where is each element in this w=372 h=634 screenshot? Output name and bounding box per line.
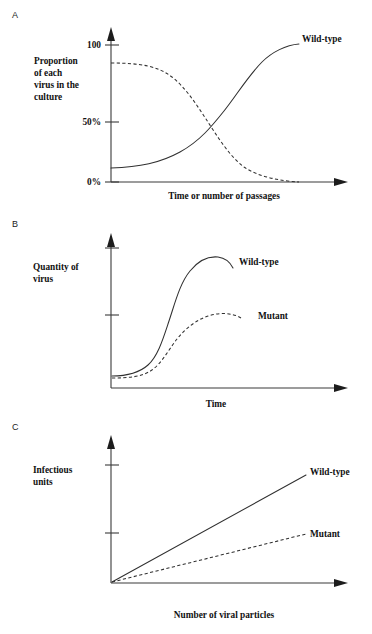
- panel-b: B Quantity of virus Time Wild-type Mutan…: [0, 215, 372, 415]
- panel-a-x-axis-label: Time or number of passages: [168, 191, 280, 201]
- panel-c-x-axis-label: Number of viral particles: [174, 610, 275, 620]
- panel-c-series-label-mutant: Mutant: [310, 529, 341, 539]
- panel-c-chart: Infectious units Number of viral particl…: [0, 415, 372, 634]
- panel-a: A 100 50% 0% Proportion of each virus in…: [0, 0, 372, 215]
- panel-c-x-axis-arrow: [334, 579, 348, 587]
- panel-a-y-axis-arrow: [107, 27, 115, 41]
- panel-a-series-label-wildtype: Wild-type: [302, 34, 342, 44]
- panel-a-ytick-label-0: 0%: [87, 177, 101, 187]
- panel-a-chart: 100 50% 0% Proportion of each virus in t…: [0, 0, 372, 215]
- panel-a-y-axis-label-line-3: virus in the: [34, 80, 79, 90]
- panel-b-x-axis-label: Time: [206, 399, 227, 409]
- panel-b-y-axis-arrow: [107, 233, 115, 247]
- panel-b-y-axis-label-line-1: Quantity of: [33, 262, 80, 272]
- panel-a-ytick-label-100: 100: [87, 40, 101, 50]
- panel-c-y-axis-arrow: [107, 435, 115, 449]
- panel-a-y-axis-label-line-1: Proportion: [34, 56, 79, 66]
- panel-c-y-axis-label-line-1: Infectious: [33, 465, 73, 475]
- panel-b-wildtype-curve: [112, 257, 233, 376]
- panel-c-series-label-wildtype: Wild-type: [310, 467, 350, 477]
- panel-a-y-axis-label-line-4: culture: [34, 92, 62, 102]
- panel-c-wildtype-line: [112, 475, 306, 582]
- panel-c: C Infectious units Number of viral parti…: [0, 415, 372, 634]
- panel-a-wildtype-curve: [111, 44, 299, 168]
- panel-a-mutant-curve: [111, 63, 299, 182]
- panel-b-y-axis-label-line-2: virus: [33, 274, 54, 284]
- panel-a-ytick-label-50: 50%: [82, 117, 101, 127]
- panel-a-y-axis-label-line-2: of each: [34, 68, 63, 78]
- panel-b-mutant-curve: [112, 314, 241, 378]
- panel-b-chart: Quantity of virus Time Wild-type Mutant: [0, 215, 372, 415]
- panel-b-series-label-mutant: Mutant: [258, 311, 289, 321]
- panel-b-series-label-wildtype: Wild-type: [239, 257, 279, 267]
- panel-c-mutant-line: [112, 534, 306, 582]
- panel-a-x-axis-arrow: [334, 178, 348, 186]
- panel-c-y-axis-label-line-2: units: [33, 477, 53, 487]
- panel-b-x-axis-arrow: [334, 384, 348, 392]
